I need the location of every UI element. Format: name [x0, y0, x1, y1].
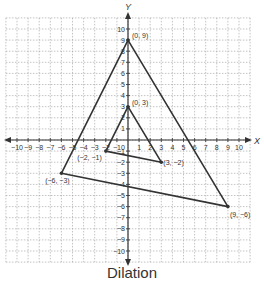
x-tick-label: −3 [91, 144, 99, 151]
y-tick-label: −6 [117, 203, 125, 210]
x-axis-right-arrow-icon [245, 137, 252, 143]
y-tick-label: −8 [117, 225, 125, 232]
x-tick-label: 7 [204, 144, 208, 151]
y-tick-label: −5 [117, 192, 125, 199]
vertex-label: (3, −2) [163, 159, 183, 167]
figure-caption: Dilation [0, 264, 264, 281]
x-tick-label: −9 [24, 144, 32, 151]
x-tick-label: 8 [215, 144, 219, 151]
x-tick-label: −7 [46, 144, 54, 151]
x-tick-label: −4 [80, 144, 88, 151]
vertex-point [226, 205, 230, 209]
vertex-label: (0, 3) [132, 99, 148, 107]
y-tick-label: 3 [121, 103, 125, 110]
x-tick-label: 5 [182, 144, 186, 151]
y-axis-label: Y [125, 2, 132, 12]
x-axis-label: X [253, 136, 261, 146]
vertex-point [126, 38, 130, 42]
x-axis-left-arrow-icon [4, 137, 11, 143]
x-tick-label: 4 [170, 144, 174, 151]
origin-label: 0 [121, 144, 125, 151]
y-axis-up-arrow-icon [125, 12, 131, 19]
x-tick-label: 3 [159, 144, 163, 151]
x-tick-label: −8 [35, 144, 43, 151]
y-tick-label: −10 [113, 248, 125, 255]
vertex-point [60, 172, 64, 176]
y-tick-label: 6 [121, 70, 125, 77]
y-tick-label: 10 [117, 26, 125, 33]
x-tick-label: 9 [226, 144, 230, 151]
y-tick-label: 1 [121, 125, 125, 132]
original-triangle [106, 107, 162, 163]
coordinate-plane: XY−10−9−8−7−6−5−4−3−2−112345678910−10−9−… [0, 0, 264, 287]
vertex-point [126, 105, 130, 109]
vertex-label: (−2, −1) [77, 154, 102, 162]
x-tick-label: 1 [137, 144, 141, 151]
dilated-triangle [61, 40, 228, 207]
y-tick-label: 9 [121, 37, 125, 44]
vertex-point [104, 149, 108, 153]
vertex-label: (0, 9) [132, 32, 148, 40]
y-tick-label: 7 [121, 59, 125, 66]
y-tick-label: −3 [117, 170, 125, 177]
y-tick-label: 4 [121, 92, 125, 99]
vertex-label: (−6, −3) [45, 177, 70, 185]
x-tick-label: 10 [235, 144, 243, 151]
x-tick-label: −10 [11, 144, 23, 151]
y-tick-label: −7 [117, 214, 125, 221]
y-tick-label: −2 [117, 159, 125, 166]
x-tick-label: −6 [57, 144, 65, 151]
y-tick-label: −9 [117, 236, 125, 243]
vertex-label: (9, −6) [230, 211, 250, 219]
y-tick-label: 5 [121, 81, 125, 88]
